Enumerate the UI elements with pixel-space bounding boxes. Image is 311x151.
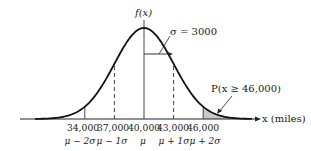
x-axis-arrow-icon — [255, 117, 261, 122]
probability-label: P(x ≥ 46,000) — [211, 83, 281, 94]
tick-value-40000: 40,000 — [128, 122, 160, 133]
tick-value-37000: 37,000 — [97, 122, 129, 133]
tick-symbol-mu-plus-2-sigma: μ + 2σ — [190, 136, 222, 146]
probability-leader-line — [219, 96, 232, 112]
tick-value-46000: 46,000 — [187, 122, 219, 133]
sigma-leader-line — [159, 36, 170, 54]
tick-symbol-mu-plus-1-sigma: μ + 1σ — [159, 136, 191, 146]
normal-distribution-diagram: σ = 3000 f(x) P(x ≥ 46,000) x (miles) 34… — [0, 0, 311, 151]
tick-symbol-mu-minus-1-sigma: μ − 1σ — [97, 136, 129, 146]
normal-curve — [35, 28, 252, 119]
tick-value-43000: 43,000 — [157, 122, 189, 133]
tick-value-34000: 34,000 — [67, 122, 99, 133]
y-axis-label: f(x) — [134, 7, 152, 18]
tick-symbol-mu-minus-2-sigma: μ − 2σ — [65, 136, 97, 146]
sigma-label: σ = 3000 — [170, 26, 217, 37]
x-axis-label: x (miles) — [262, 113, 306, 124]
tick-symbol-mu: μ — [140, 136, 146, 146]
sigma-arrow-head-icon — [168, 52, 173, 56]
